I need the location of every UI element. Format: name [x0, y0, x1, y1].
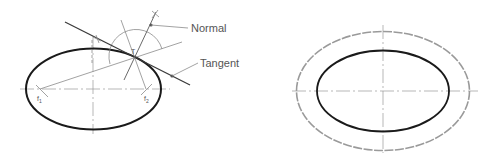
point-t-label: T: [131, 48, 136, 55]
normal-line: [124, 12, 156, 80]
normal-label: Normal: [191, 22, 226, 34]
focus1-label: f1: [37, 95, 42, 104]
right-figure: [292, 25, 478, 153]
tangent-label: Tangent: [200, 57, 239, 69]
left-figure: Normal Tangent T f1 f2: [20, 10, 239, 134]
diagram-canvas: Normal Tangent T f1 f2: [0, 0, 499, 162]
focus2-label: f2: [144, 95, 149, 104]
normal-leader: [151, 25, 188, 28]
tangent-leader: [172, 63, 198, 76]
